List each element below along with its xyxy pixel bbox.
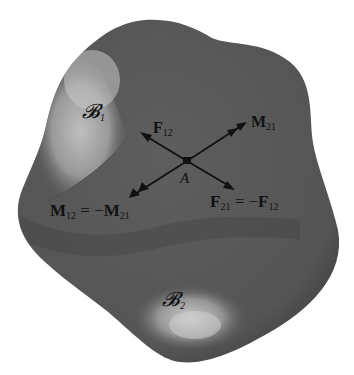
- body-shape: [18, 20, 339, 363]
- point-a-label: A: [179, 170, 190, 186]
- force-equation: F21 = −F12: [210, 192, 278, 212]
- moment-equation: M12 = −M21: [50, 201, 130, 221]
- point-a-marker: [183, 157, 191, 164]
- interaction-diagram: 𝓑1 𝓑2 F12 M21 A M12 = −M21 F21 = −F12: [0, 0, 354, 375]
